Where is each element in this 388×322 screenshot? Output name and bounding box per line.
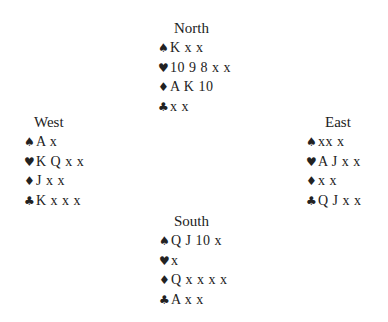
heart-icon: ♥ [306, 153, 318, 173]
south-hand: South ♠Q J 10 x ♥x ♦Q x x x x ♣A x x [159, 211, 228, 309]
spade-icon: ♠ [158, 39, 170, 59]
west-hearts-line: ♥K Q x x [24, 152, 84, 172]
south-spades-line: ♠Q J 10 x [159, 231, 228, 251]
north-clubs-cards: x x [170, 99, 189, 114]
spade-icon: ♠ [306, 133, 318, 153]
south-diamonds-cards: Q x x x x [171, 272, 228, 287]
west-spades-cards: A x [36, 134, 57, 149]
diamond-icon: ♦ [24, 172, 36, 192]
east-diamonds-cards: x x [318, 173, 337, 188]
north-hand: North ♠K x x ♥10 9 8 x x ♦A K 10 ♣x x [158, 18, 231, 116]
north-diamonds-cards: A K 10 [170, 79, 213, 94]
west-spades-line: ♠A x [24, 132, 84, 152]
east-diamonds-line: ♦x x [306, 171, 362, 191]
east-clubs-line: ♣Q J x x [306, 191, 362, 211]
east-hearts-cards: A J x x [318, 154, 361, 169]
hand-title-east: East [306, 112, 362, 132]
north-diamonds-line: ♦A K 10 [158, 77, 231, 97]
south-clubs-cards: A x x [171, 292, 204, 307]
spade-icon: ♠ [24, 133, 36, 153]
heart-icon: ♥ [158, 59, 170, 79]
hand-title-south: South [159, 211, 228, 231]
north-hearts-cards: 10 9 8 x x [170, 60, 231, 75]
diamond-icon: ♦ [159, 271, 171, 291]
east-spades-cards: xx x [318, 134, 345, 149]
south-spades-cards: Q J 10 x [171, 233, 222, 248]
north-hearts-line: ♥10 9 8 x x [158, 58, 231, 78]
east-clubs-cards: Q J x x [318, 193, 362, 208]
spade-icon: ♠ [159, 232, 171, 252]
west-clubs-cards: K x x x [36, 193, 81, 208]
south-hearts-cards: x [171, 253, 179, 268]
heart-icon: ♥ [24, 153, 36, 173]
club-icon: ♣ [158, 98, 170, 118]
west-hand: West ♠A x ♥K Q x x ♦J x x ♣K x x x [24, 112, 84, 210]
hand-title-north: North [158, 18, 231, 38]
north-spades-line: ♠K x x [158, 38, 231, 58]
south-diamonds-line: ♦Q x x x x [159, 270, 228, 290]
club-icon: ♣ [306, 192, 318, 212]
heart-icon: ♥ [159, 252, 171, 272]
west-diamonds-cards: J x x [36, 173, 65, 188]
east-spades-line: ♠xx x [306, 132, 362, 152]
south-clubs-line: ♣A x x [159, 290, 228, 310]
diamond-icon: ♦ [306, 172, 318, 192]
north-clubs-line: ♣x x [158, 97, 231, 117]
club-icon: ♣ [159, 291, 171, 311]
north-spades-cards: K x x [170, 40, 204, 55]
east-hand: East ♠xx x ♥A J x x ♦x x ♣Q J x x [306, 112, 362, 210]
west-diamonds-line: ♦J x x [24, 171, 84, 191]
west-clubs-line: ♣K x x x [24, 191, 84, 211]
club-icon: ♣ [24, 192, 36, 212]
east-hearts-line: ♥A J x x [306, 152, 362, 172]
south-hearts-line: ♥x [159, 251, 228, 271]
hand-title-west: West [24, 112, 84, 132]
diamond-icon: ♦ [158, 78, 170, 98]
west-hearts-cards: K Q x x [36, 154, 84, 169]
